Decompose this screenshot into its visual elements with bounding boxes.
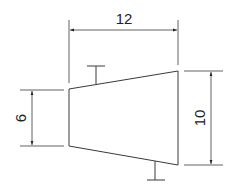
taper-mark-bottom — [147, 161, 165, 180]
left-height-dimension: 6 — [12, 90, 64, 146]
right-height-label: 10 — [191, 110, 208, 127]
taper-mark-top — [87, 66, 105, 84]
top-width-label: 12 — [116, 10, 133, 27]
technical-drawing: 12 6 10 — [0, 0, 238, 195]
left-height-label: 6 — [12, 114, 29, 122]
top-width-dimension: 12 — [69, 10, 178, 83]
right-height-dimension: 10 — [184, 71, 223, 165]
trapezoid-outline — [69, 71, 178, 165]
